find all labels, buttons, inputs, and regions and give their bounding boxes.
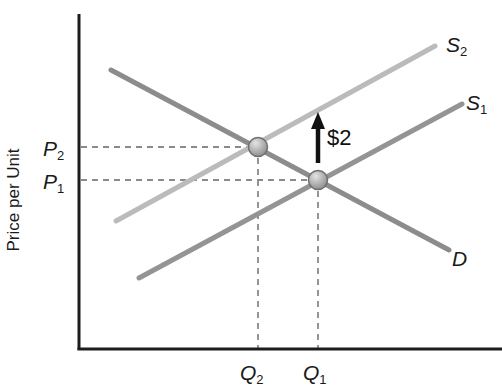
demand-D-label: D bbox=[452, 247, 467, 270]
label-Q2: Q2 bbox=[240, 361, 264, 387]
chart-canvas: S2S1DPrice per Unit$2P2P1Q2Q1 bbox=[0, 0, 502, 392]
supply-S2-label: S2 bbox=[446, 33, 467, 59]
label-P2: P2 bbox=[43, 137, 64, 163]
demand-D-line bbox=[111, 70, 449, 250]
label-P1: P1 bbox=[43, 170, 64, 196]
shift-amount-label: $2 bbox=[327, 125, 351, 150]
supply-demand-figure: S2S1DPrice per Unit$2P2P1Q2Q1 bbox=[0, 0, 502, 392]
equilibrium-initial-point bbox=[309, 171, 328, 190]
supply-S1-label: S1 bbox=[466, 91, 487, 117]
supply-S1-line bbox=[139, 104, 462, 278]
equilibrium-new-point bbox=[249, 138, 268, 157]
supply-S2-line bbox=[116, 46, 435, 221]
y-axis-title: Price per Unit bbox=[4, 148, 23, 251]
label-Q1: Q1 bbox=[303, 361, 327, 387]
